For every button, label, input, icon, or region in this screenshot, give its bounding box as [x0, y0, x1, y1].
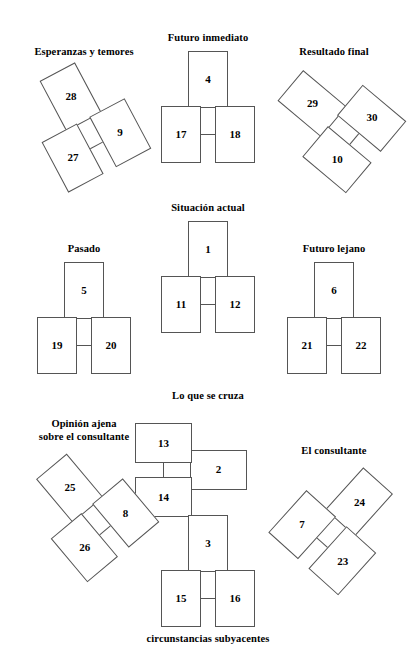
group-label-line-2: sobre el consultante: [39, 431, 129, 442]
card-number-8: 8: [123, 507, 129, 518]
card-number-21: 21: [302, 340, 313, 351]
card-number-5: 5: [81, 285, 87, 296]
connector-line: [77, 345, 91, 346]
group-label-opinion-ajena: Opinión ajena sobre el consultante: [19, 418, 149, 443]
card-number-6: 6: [331, 285, 337, 296]
card-number-3: 3: [205, 538, 211, 549]
group-label-futuro-lejano: Futuro lejano: [303, 243, 366, 256]
group-label-circunstancias-subyacentes: circunstancias subyacentes: [147, 633, 270, 646]
card-23[interactable]: 23: [308, 526, 376, 595]
connector-line: [163, 463, 164, 477]
card-number-14: 14: [158, 492, 169, 503]
card-4[interactable]: 4: [188, 51, 228, 108]
card-number-18: 18: [230, 129, 241, 140]
group-label-lo-que-se-cruza: Lo que se cruza: [172, 390, 244, 403]
connector-line: [90, 142, 103, 149]
group-label-situacion-actual: Situación actual: [171, 202, 245, 215]
card-number-7: 7: [299, 519, 305, 530]
card-number-30: 30: [366, 113, 377, 124]
card-19[interactable]: 19: [37, 317, 77, 374]
card-number-10: 10: [331, 154, 342, 165]
connector-line: [201, 134, 215, 135]
group-label-line-1: Opinión ajena: [51, 418, 116, 429]
group-label-futuro-inmediato: Futuro inmediato: [168, 32, 248, 45]
group-label-pasado: Pasado: [68, 243, 101, 256]
card-18[interactable]: 18: [215, 106, 255, 163]
card-21[interactable]: 21: [287, 317, 327, 374]
card-27[interactable]: 27: [42, 124, 104, 193]
connector-line: [201, 598, 215, 599]
card-6[interactable]: 6: [314, 262, 354, 319]
card-number-17: 17: [176, 129, 187, 140]
card-number-1: 1: [205, 244, 211, 255]
card-number-11: 11: [176, 299, 186, 310]
group-label-el-consultante: El consultante: [301, 445, 366, 458]
card-number-23: 23: [337, 555, 348, 566]
card-29[interactable]: 29: [277, 70, 346, 137]
card-5[interactable]: 5: [64, 262, 104, 319]
connector-line: [349, 133, 359, 144]
card-number-29: 29: [307, 98, 318, 109]
connector-line: [201, 304, 215, 305]
card-number-27: 27: [67, 153, 78, 164]
card-number-15: 15: [176, 593, 187, 604]
card-12[interactable]: 12: [215, 276, 255, 333]
group-label-esperanzas-y-temores: Esperanzas y temores: [34, 46, 133, 59]
card-24[interactable]: 24: [325, 467, 393, 536]
card-2[interactable]: 2: [190, 450, 247, 490]
card-25[interactable]: 25: [36, 453, 103, 522]
card-number-4: 4: [205, 74, 211, 85]
card-number-24: 24: [354, 496, 365, 507]
card-number-2: 2: [216, 465, 222, 476]
card-number-25: 25: [64, 483, 75, 494]
card-number-28: 28: [65, 91, 76, 102]
card-3[interactable]: 3: [188, 515, 228, 572]
card-number-13: 13: [158, 438, 169, 449]
card-16[interactable]: 16: [215, 570, 255, 627]
group-label-resultado-final: Resultado final: [299, 46, 368, 59]
card-1[interactable]: 1: [188, 221, 228, 278]
connector-line: [99, 525, 110, 535]
connector-line: [327, 345, 341, 346]
card-20[interactable]: 20: [91, 317, 131, 374]
card-number-19: 19: [52, 340, 63, 351]
connector-line: [317, 538, 328, 548]
card-number-20: 20: [106, 340, 117, 351]
card-number-16: 16: [230, 593, 241, 604]
card-15[interactable]: 15: [161, 570, 201, 627]
card-number-9: 9: [118, 127, 124, 138]
card-22[interactable]: 22: [341, 317, 381, 374]
card-17[interactable]: 17: [161, 106, 201, 163]
card-number-26: 26: [79, 542, 90, 553]
card-number-22: 22: [356, 340, 367, 351]
card-11[interactable]: 11: [161, 276, 201, 333]
card-number-12: 12: [230, 299, 241, 310]
